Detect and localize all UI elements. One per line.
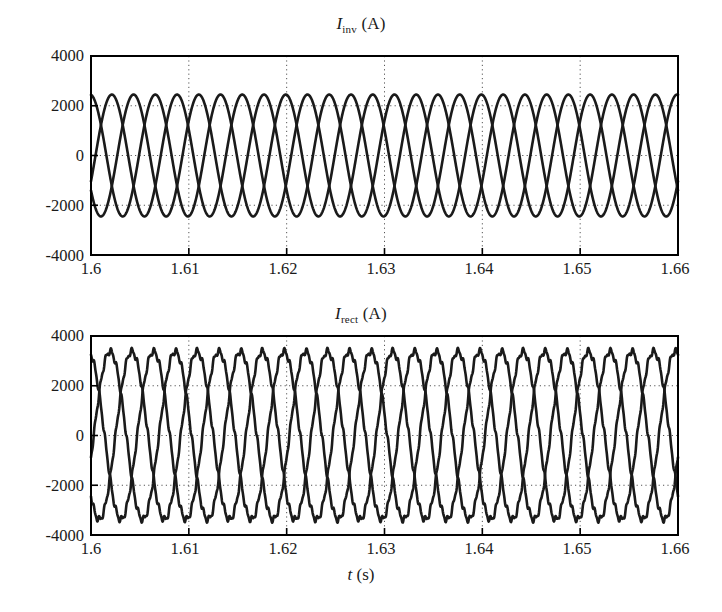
xtick-label-rect-1p60: 1.6 [61, 539, 121, 559]
xtick-label-inv-1p62: 1.62 [246, 259, 320, 279]
figure-two-panel-current-waveforms: Iinv (A) 4000 2000 0 -2000 -4000 1.6 1.6… [0, 0, 722, 612]
xaxis-unit-s: (s) [357, 565, 375, 584]
ytick-label-rect-2000: 2000 [0, 376, 84, 396]
xtick-label-inv-1p65: 1.65 [540, 259, 614, 279]
xtick-label-rect-1p62: 1.62 [246, 539, 320, 559]
plot-area-inverter [0, 0, 722, 300]
ytick-label-inv-n2000: -2000 [0, 196, 84, 216]
xtick-label-rect-1p63: 1.63 [344, 539, 418, 559]
xtick-label-inv-1p60: 1.6 [61, 259, 121, 279]
ytick-label-rect-n2000: -2000 [0, 476, 84, 496]
xtick-label-rect-1p64: 1.64 [442, 539, 516, 559]
xtick-label-rect-1p66: 1.66 [638, 539, 712, 559]
ytick-label-inv-2000: 2000 [0, 96, 84, 116]
xtick-label-rect-1p61: 1.61 [148, 539, 222, 559]
xaxis-label-time: t (s) [0, 565, 722, 585]
panel-inverter-current: Iinv (A) 4000 2000 0 -2000 -4000 1.6 1.6… [0, 0, 722, 300]
xaxis-symbol-t: t [348, 565, 353, 584]
xtick-label-inv-1p66: 1.66 [638, 259, 712, 279]
ytick-label-inv-0: 0 [0, 146, 84, 166]
xtick-label-inv-1p64: 1.64 [442, 259, 516, 279]
ytick-label-rect-4000: 4000 [0, 326, 84, 346]
panel-rectifier-current: Irect (A) 4000 2000 0 -2000 -4000 1.6 1.… [0, 296, 722, 612]
ytick-label-rect-0: 0 [0, 426, 84, 446]
ytick-label-inv-4000: 4000 [0, 46, 84, 66]
xtick-label-inv-1p61: 1.61 [148, 259, 222, 279]
xtick-label-inv-1p63: 1.63 [344, 259, 418, 279]
xtick-label-rect-1p65: 1.65 [540, 539, 614, 559]
